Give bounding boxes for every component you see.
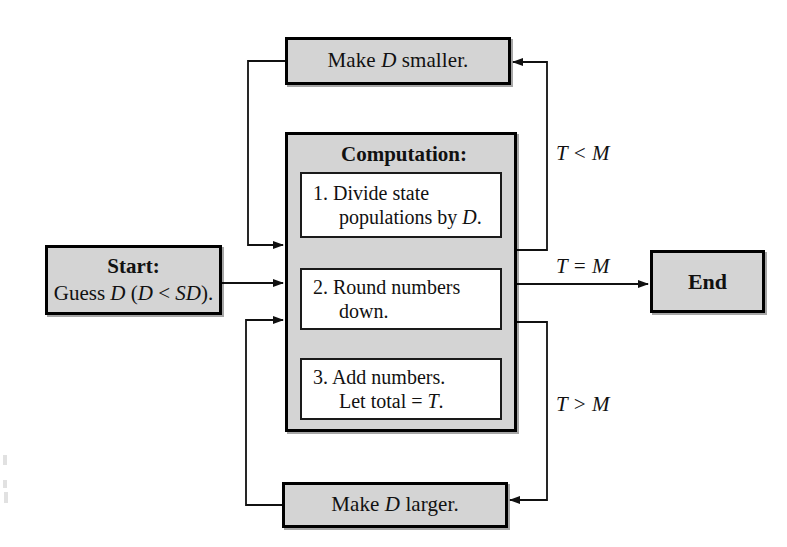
node-step-1[interactable]: 1. Divide state populations by D.	[300, 172, 502, 238]
start-close-paren: ).	[201, 281, 213, 305]
start-heading: Start:	[107, 254, 159, 279]
step-2-line2: down.	[313, 299, 500, 323]
end-label: End	[688, 269, 727, 295]
step-2-number: 2.	[313, 276, 328, 298]
node-make-d-larger[interactable]: Make D larger.	[282, 482, 508, 528]
start-body: Guess D (D < SD).	[54, 281, 213, 306]
scan-artifact	[3, 455, 7, 465]
computation-title: Computation:	[288, 142, 520, 167]
start-open-paren: (	[126, 281, 138, 305]
step-2-line1: Round numbers	[333, 276, 460, 298]
edge-label-t-equals-m: T = M	[556, 254, 609, 279]
start-relation: <	[153, 281, 175, 305]
make-d-larger-label: Make D larger.	[331, 492, 459, 518]
edge-label-t-less-than-m: T < M	[556, 141, 609, 166]
step-1-line2-lead: populations by	[339, 206, 462, 228]
step-1-line1: Divide state	[333, 182, 429, 204]
scan-artifact	[3, 480, 7, 488]
node-step-2[interactable]: 2. Round numbers down.	[300, 268, 502, 330]
node-step-3[interactable]: 3. Add numbers. Let total = T.	[300, 358, 502, 420]
step-1-var: D	[462, 206, 476, 228]
start-body-lead: Guess	[54, 281, 111, 305]
make-larger-lead: Make	[331, 492, 385, 516]
step-1-text: 1. Divide state populations by D.	[302, 181, 500, 229]
make-smaller-lead: Make	[328, 48, 382, 72]
step-1-line2: populations by D.	[313, 205, 500, 229]
step-1-number: 1.	[313, 182, 328, 204]
node-make-d-smaller[interactable]: Make D smaller.	[285, 37, 511, 85]
step-1-line2-tail: .	[477, 206, 482, 228]
step-3-line2-tail: .	[439, 390, 444, 412]
step-3-var: T	[427, 390, 438, 412]
node-end[interactable]: End	[650, 250, 765, 313]
scan-artifact	[4, 492, 8, 503]
make-larger-tail: larger.	[400, 492, 459, 516]
step-3-text: 3. Add numbers. Let total = T.	[302, 365, 500, 413]
edge-make-smaller-to-computation	[248, 61, 285, 245]
step-3-line1: Add numbers.	[332, 366, 445, 388]
make-smaller-var: D	[381, 48, 396, 72]
start-var-d2: D	[138, 281, 153, 305]
edge-make-larger-to-computation	[246, 320, 283, 505]
step-2-line2-lead: down.	[339, 300, 388, 322]
edge-label-t-greater-than-m: T > M	[556, 392, 609, 417]
step-2-text: 2. Round numbers down.	[302, 275, 500, 323]
start-var-d: D	[110, 281, 125, 305]
step-3-line2-lead: Let total =	[339, 390, 427, 412]
make-d-smaller-label: Make D smaller.	[328, 48, 469, 74]
start-var-sd: SD	[175, 281, 201, 305]
make-smaller-tail: smaller.	[396, 48, 468, 72]
step-3-line2: Let total = T.	[313, 389, 500, 413]
flowchart-canvas: Make D smaller. Make D larger. Start: Gu…	[0, 0, 787, 547]
node-start[interactable]: Start: Guess D (D < SD).	[45, 245, 222, 315]
step-3-number: 3.	[313, 366, 328, 388]
make-larger-var: D	[385, 492, 400, 516]
